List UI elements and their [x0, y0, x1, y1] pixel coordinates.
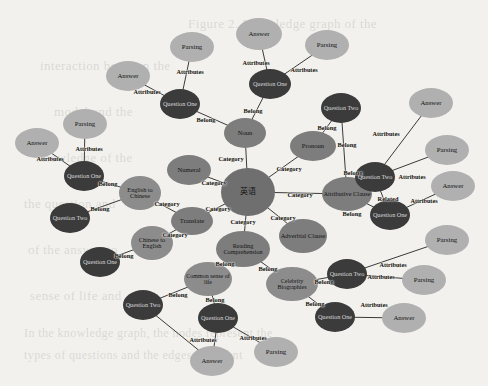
graph-node-label: English to Chinese: [120, 187, 160, 200]
graph-node-label: Question Two: [322, 105, 360, 111]
graph-edge-label: Attributes: [189, 336, 216, 343]
graph-node[interactable]: Question Two: [123, 290, 163, 320]
graph-node[interactable]: Question One: [249, 69, 291, 99]
graph-node-label: Chinese to English: [132, 237, 172, 250]
graph-edge-label: Belong: [338, 141, 357, 148]
graph-node-label: Common sense of life: [185, 273, 231, 285]
graph-node-label: Question One: [199, 315, 237, 321]
graph-node-label: Question Two: [328, 271, 366, 277]
graph-edge-label: Belong: [344, 169, 363, 176]
graph-node-label: Attributive Clause: [323, 191, 371, 198]
graph-node[interactable]: Answer: [236, 18, 282, 50]
graph-edge-label: Belong: [315, 278, 334, 285]
graph-edge-label: Attributes: [36, 155, 63, 162]
graph-node-label: Question One: [65, 173, 103, 179]
graph-node-label: Numeral: [168, 167, 210, 174]
graph-node[interactable]: Celebrity Biographies: [266, 267, 318, 301]
graph-node[interactable]: Question One: [315, 302, 355, 332]
graph-node-label: Question One: [250, 81, 290, 87]
graph-node-label: Adverbial Clause: [280, 233, 326, 240]
graph-node[interactable]: Answer: [409, 88, 453, 118]
graph-node-label: Question One: [316, 314, 354, 320]
graph-node-label: 英语: [222, 188, 274, 196]
graph-edge-label: Attributes: [239, 334, 266, 341]
graph-node[interactable]: Question One: [370, 200, 410, 230]
graph-node-label: Answer: [383, 315, 425, 322]
graph-edge-label: Related: [378, 195, 399, 202]
graph-edge-label: Belong: [169, 291, 188, 298]
graph-node[interactable]: Parsing: [305, 30, 349, 60]
graph-node-label: Parsing: [306, 42, 348, 49]
graph-node[interactable]: Question One: [198, 303, 238, 333]
graph-edge-label: Attributes: [133, 88, 160, 95]
graph-node[interactable]: Question One: [64, 161, 104, 191]
graph-edge-label: Attributes: [360, 301, 387, 308]
graph-edge-label: Belong: [259, 265, 278, 272]
graph-node[interactable]: Parsing: [254, 337, 298, 367]
graph-node[interactable]: Question Two: [327, 259, 367, 289]
graph-node-label: Parsing: [426, 237, 468, 244]
graph-node[interactable]: Parsing: [63, 109, 107, 139]
graph-node[interactable]: Question Two: [355, 162, 395, 192]
graph-node[interactable]: Pronoun: [290, 131, 336, 161]
graph-edge-label: Belong: [99, 180, 118, 187]
graph-node-label: Question Two: [124, 302, 162, 308]
graph-node-label: Answer: [16, 140, 58, 147]
graph-edge-label: Category: [276, 165, 301, 172]
graph-node[interactable]: Noun: [224, 118, 266, 148]
graph-edge-label: Belong: [343, 210, 362, 217]
graph-edge-label: Belong: [244, 107, 263, 114]
graph-node[interactable]: Answer: [15, 128, 59, 158]
graph-edge-label: Category: [270, 214, 295, 221]
graph-node-label: Parsing: [255, 349, 297, 356]
graph-edge-label: Attributes: [372, 130, 399, 137]
graph-node-label: Parsing: [426, 147, 468, 154]
graph-node[interactable]: Answer: [106, 61, 150, 91]
graph-edge-label: Attributes: [367, 273, 394, 280]
graph-edge-label: Category: [218, 155, 243, 162]
graph-node[interactable]: Answer: [190, 346, 234, 376]
graph-node-label: Parsing: [64, 121, 106, 128]
graph-node[interactable]: Parsing: [402, 265, 446, 295]
graph-node[interactable]: Parsing: [425, 135, 469, 165]
graph-edge-label: Belong: [206, 296, 225, 303]
graph-node-label: Question One: [371, 212, 409, 218]
graph-edge-label: Attributes: [410, 197, 437, 204]
graph-edge-label: Attributes: [290, 66, 317, 73]
graph-edge-label: Category: [205, 205, 230, 212]
graph-node-label: Question Two: [51, 215, 89, 221]
graph-edge-label: Belong: [91, 205, 110, 212]
graph-edge-label: Category: [230, 218, 255, 225]
graph-node[interactable]: Parsing: [425, 225, 469, 255]
graph-edge-label: Attributes: [176, 68, 203, 75]
graph-edge-label: Attributes: [242, 59, 269, 66]
graph-node[interactable]: Question Two: [321, 93, 361, 123]
graph-node[interactable]: Question One: [160, 89, 200, 119]
graph-node[interactable]: Parsing: [170, 32, 214, 62]
graph-node[interactable]: Answer: [431, 171, 475, 201]
graph-edge-label: Attributes: [75, 145, 102, 152]
graph-edge-label: Category: [201, 179, 226, 186]
graph-node-label: Answer: [191, 358, 233, 365]
graph-node-label: Parsing: [403, 277, 445, 284]
graph-node-label: Answer: [107, 73, 149, 80]
graph-edge-label: Category: [154, 200, 179, 207]
graph-edge-label: Category: [162, 231, 187, 238]
graph-node[interactable]: Common sense of life: [184, 262, 232, 296]
graph-node-label: Celebrity Biographies: [267, 278, 317, 290]
graph-edge-label: Attributes: [379, 261, 406, 268]
graph-node[interactable]: Adverbial Clause: [279, 219, 327, 253]
graph-node-label: Reading Comprehension: [217, 243, 269, 256]
graph-node[interactable]: Question Two: [50, 203, 90, 233]
graph-node-label: Question One: [161, 101, 199, 107]
graph-node-label: Parsing: [171, 44, 213, 51]
graph-node[interactable]: Answer: [382, 303, 426, 333]
graph-edge-label: Belong: [306, 300, 325, 307]
graph-edge-label: Belong: [197, 116, 216, 123]
knowledge-graph-canvas: Figure 2. Knowledge graph of theinteract…: [0, 0, 488, 386]
graph-edge-label: Category: [287, 191, 312, 198]
graph-edge-label: Belong: [318, 124, 337, 131]
graph-node-label: Question One: [81, 259, 119, 265]
graph-node-label: Pronoun: [291, 143, 335, 150]
graph-node-label: Answer: [432, 183, 474, 190]
